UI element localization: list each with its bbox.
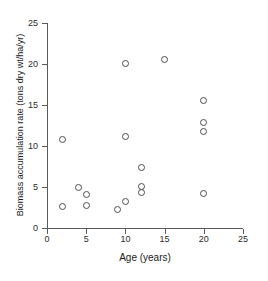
data-point: [161, 56, 168, 63]
data-point: [138, 164, 145, 171]
y-axis-title: Biomass accumulation rate (tons dry wt/h…: [15, 17, 25, 233]
data-point: [59, 203, 66, 210]
data-point: [59, 136, 66, 143]
x-axis-tick-label: 15: [153, 234, 177, 244]
clipped-caption: [0, 272, 268, 281]
x-axis-line: [47, 228, 243, 229]
data-point: [122, 198, 129, 205]
y-axis-tick: [42, 146, 47, 147]
x-axis-tick-label: 5: [74, 234, 98, 244]
y-axis-tick: [42, 64, 47, 65]
scatter-plot-figure: 05101520250510152025 Age (years) Biomass…: [0, 0, 268, 281]
y-axis-line: [47, 23, 48, 229]
data-point: [75, 184, 82, 191]
data-point: [200, 119, 207, 126]
data-point: [83, 191, 90, 198]
x-axis-tick-label: 20: [192, 234, 216, 244]
y-axis-tick: [42, 105, 47, 106]
x-axis-tick-label: 25: [231, 234, 255, 244]
data-point: [122, 133, 129, 140]
data-point: [200, 190, 207, 197]
data-point: [114, 206, 121, 213]
data-point: [200, 128, 207, 135]
data-point: [200, 97, 207, 104]
x-axis-tick-label: 10: [113, 234, 137, 244]
y-axis-tick: [42, 23, 47, 24]
data-point: [83, 202, 90, 209]
x-axis-tick-label: 0: [35, 234, 59, 244]
data-point: [138, 189, 145, 196]
data-point: [122, 60, 129, 67]
x-axis-title: Age (years): [47, 252, 243, 263]
y-axis-tick: [42, 187, 47, 188]
